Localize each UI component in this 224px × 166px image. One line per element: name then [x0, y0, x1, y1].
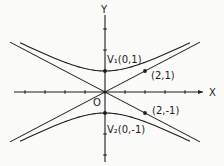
- origin-label: O: [93, 97, 101, 108]
- asymptote-point-lower-dot: [143, 111, 147, 115]
- y-axis-label: Y: [100, 4, 108, 15]
- asymptote-point-upper-dot: [143, 69, 147, 73]
- vertex-2-dot: [103, 111, 107, 115]
- vertex-1-label: V₁(0,1): [107, 54, 142, 65]
- x-axis-label: X: [209, 87, 216, 98]
- origin-dot: [103, 90, 106, 93]
- vertex-1-dot: [103, 69, 107, 73]
- vertex-2-label: V₂(0,-1): [107, 124, 145, 135]
- axes: [14, 15, 203, 162]
- point-2-neg1-label: (2,-1): [152, 105, 179, 116]
- point-2-1-label: (2,1): [151, 70, 175, 81]
- hyperbola-diagram: X Y O V₁(0,1) V₂(0,-1) (2,1) (2,-1): [0, 0, 224, 166]
- x-axis-arrow-icon: [198, 90, 203, 94]
